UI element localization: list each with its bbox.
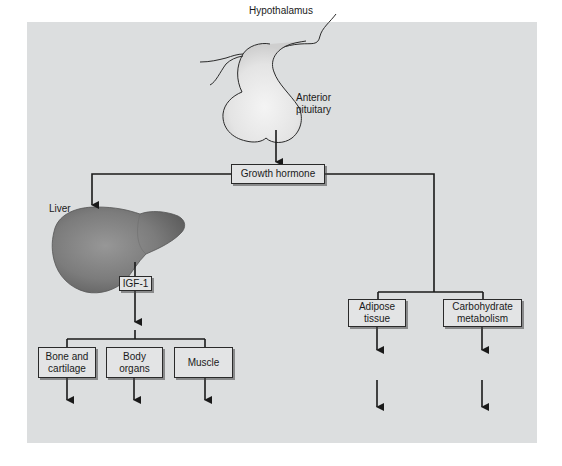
adipose-tissue-box: Adipose tissue bbox=[348, 299, 406, 327]
bone-cartilage-box: Bone and cartilage bbox=[38, 347, 96, 378]
muscle-box: Muscle bbox=[174, 347, 233, 378]
adipose-line2: tissue bbox=[359, 313, 395, 325]
diagram-graphics bbox=[0, 0, 562, 466]
bone-line1: Bone and bbox=[46, 351, 89, 363]
anterior-pituitary-line2: pituitary bbox=[296, 104, 331, 116]
carbohydrate-metabolism-box: Carbohydrate metabolism bbox=[443, 299, 522, 327]
body-organs-box: Body organs bbox=[106, 347, 163, 378]
igf1-label: IGF-1 bbox=[123, 278, 149, 290]
pituitary-illustration bbox=[200, 14, 336, 143]
igf1-box: IGF-1 bbox=[119, 276, 152, 291]
growth-hormone-label: Growth hormone bbox=[241, 168, 315, 180]
carb-line2: metabolism bbox=[452, 313, 513, 325]
body-line2: organs bbox=[119, 363, 150, 375]
body-line1: Body bbox=[119, 351, 150, 363]
anterior-pituitary-line1: Anterior bbox=[296, 92, 331, 104]
growth-hormone-box: Growth hormone bbox=[231, 164, 325, 184]
adipose-line1: Adipose bbox=[359, 301, 395, 313]
bone-line2: cartilage bbox=[46, 363, 89, 375]
hypothalamus-label: Hypothalamus bbox=[249, 5, 313, 17]
anterior-pituitary-label: Anterior pituitary bbox=[296, 92, 331, 116]
liver-label: Liver bbox=[49, 203, 71, 215]
muscle-label: Muscle bbox=[188, 357, 220, 369]
carb-line1: Carbohydrate bbox=[452, 301, 513, 313]
